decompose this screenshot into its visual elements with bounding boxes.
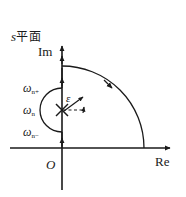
omega-n-plus-subscript: n+: [31, 88, 38, 96]
s-plane-contour-figure: s平面 Im Re O ωn+ ωn ωn− ε: [0, 0, 186, 197]
large-arc-direction-arrow: [104, 80, 112, 88]
omega-n-minus-subscript: n−: [31, 132, 38, 140]
indentation-direction-arrow: [83, 107, 84, 113]
real-axis-label: Re: [155, 155, 169, 168]
epsilon-radius-label: ε: [66, 93, 70, 104]
plane-label-cjk: 平面: [16, 30, 42, 44]
omega-n-minus-label: ωn−: [23, 126, 39, 138]
plane-label: s平面: [11, 30, 42, 43]
large-arc-path: [62, 66, 144, 148]
imaginary-axis-label: Im: [38, 45, 52, 58]
omega-n-plus-label: ωn+: [23, 82, 39, 94]
omega-n-subscript: n: [31, 110, 35, 118]
origin-label: O: [46, 158, 55, 171]
omega-n-label: ωn: [23, 104, 35, 116]
indentation-semicircle-path: [40, 88, 62, 132]
